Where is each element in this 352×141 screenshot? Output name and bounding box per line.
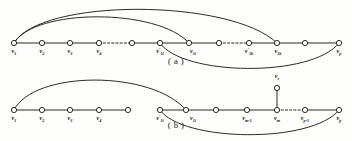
vertex-vgap-a: [216, 40, 221, 45]
panel-b-caption: ( b ): [168, 120, 184, 130]
vertex-v1: [11, 40, 16, 45]
vertex-b-v1i: [183, 107, 188, 112]
vertex-b-vplain: [213, 107, 218, 112]
label-v2: v2: [40, 48, 45, 56]
label-b-vz: vz: [275, 73, 280, 81]
label-b-v1i-prime: v′1i: [156, 114, 164, 123]
vertex-b-vm-1: [244, 107, 249, 112]
arc-v1-to-v1i: [14, 17, 189, 43]
label-b-v2: v2: [40, 115, 45, 123]
label-b-vp: vp: [337, 115, 342, 123]
label-b-v4: v4: [97, 115, 102, 123]
label-v1k: v1k: [275, 48, 283, 56]
vertex-b-v2: [39, 107, 44, 112]
vertex-b-vmid: [125, 107, 130, 112]
panel-b: v1 v2 v3 v4 v′1i v1i vm-1 vm vp-1 vp vz …: [11, 73, 341, 135]
label-v3: v3: [68, 48, 73, 56]
arc-v1-to-v1i-b: [14, 80, 186, 110]
vertex-v1i-prime: [157, 40, 162, 45]
panel-a: v1 v2 v3 v4 v′1i v1i v′1k v1k vp ( a ): [11, 9, 341, 68]
label-v4: v4: [97, 48, 102, 56]
label-b-vm-1: vm-1: [242, 115, 251, 123]
vertex-vnear-p-a: [302, 40, 307, 45]
graph-diagram-canvas: v1 v2 v3 v4 v′1i v1i v′1k v1k vp ( a ): [0, 0, 352, 141]
vertex-vmid-a: [129, 40, 134, 45]
vertex-v2: [39, 40, 44, 45]
label-b-vm: vm: [274, 115, 281, 123]
label-v1: v1: [12, 48, 17, 56]
vertex-vp: [336, 40, 341, 45]
vertex-b-vp-1: [302, 107, 307, 112]
label-vp: vp: [337, 48, 342, 56]
vertex-b-v1: [11, 107, 16, 112]
panel-a-caption: ( a ): [168, 56, 184, 66]
vertex-v1i: [186, 40, 191, 45]
label-v1k-prime: v′1k: [245, 47, 254, 56]
vertex-b-vp: [336, 107, 341, 112]
vertex-v1k-prime: [246, 40, 251, 45]
vertex-b-v1i-prime: [157, 107, 162, 112]
arc-v1-to-v1k: [14, 9, 277, 43]
vertex-b-vz: [274, 85, 279, 90]
label-b-v1: v1: [12, 115, 17, 123]
label-b-v3: v3: [68, 115, 73, 123]
vertex-v1k: [274, 40, 279, 45]
label-v1i: v1i: [190, 48, 197, 56]
label-b-vp-1: vp-1: [301, 115, 309, 123]
vertex-v4: [96, 40, 101, 45]
figure-root: v1 v2 v3 v4 v′1i v1i v′1k v1k vp ( a ): [0, 0, 352, 141]
vertex-v3: [67, 40, 72, 45]
label-v1i-prime: v′1i: [156, 47, 164, 56]
vertex-b-vm: [274, 107, 279, 112]
arc-v1iprime-to-vp: [160, 43, 339, 69]
vertex-b-v4: [96, 107, 101, 112]
vertex-b-v3: [67, 107, 72, 112]
label-b-v1i: v1i: [190, 115, 197, 123]
